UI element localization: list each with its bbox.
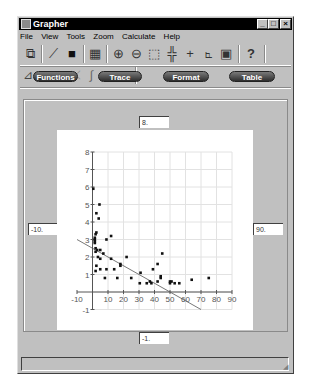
status-bar [21,357,289,371]
x-tick-label: 80 [212,295,221,304]
tab-format[interactable]: Format [163,71,209,82]
zoom-in-icon[interactable]: ⊕ [110,46,126,62]
grapher-window: Grapher _ □ × File View Tools Zoom Calcu… [17,16,294,374]
menu-file[interactable]: File [20,32,33,41]
status-text [22,365,25,374]
data-point [105,268,108,271]
minimize-button[interactable]: _ [257,19,268,29]
data-point [170,280,173,283]
plot-points-icon[interactable]: ⦜ [200,46,216,62]
data-point [139,271,142,274]
data-point [190,278,193,281]
integrate-icon[interactable]: ∫ [84,66,99,84]
x-tick-label: 50 [166,295,175,304]
zoom-out-icon[interactable]: ⊖ [128,46,144,62]
y-tick-label: 3 [85,236,90,245]
main-toolbar: ⧉ ⟋ ■ ▦ ⊕ ⊖ ⬚ ╬ + ⦜ ▣ ? [20,43,291,66]
data-point [145,282,148,285]
data-point [92,187,95,190]
zoom-box-icon[interactable]: ⬚ [146,46,162,62]
new-graph-icon[interactable]: ⧉ [22,46,38,62]
data-point [99,268,102,271]
data-point [95,264,98,267]
xmin-input[interactable]: -10. [28,223,58,235]
y-tick-label: 8 [85,148,90,157]
data-point [113,268,116,271]
x-tick-label: 30 [135,295,144,304]
tab-functions[interactable]: Functions [33,71,78,82]
menu-bar: File View Tools Zoom Calculate Help [20,31,186,42]
data-point [207,277,210,280]
table-window-icon[interactable]: ▣ [218,46,234,62]
graph-canvas[interactable]: -10102030405060708090-112345678 [57,130,253,330]
y-tick-label: 5 [85,201,90,210]
menu-view[interactable]: View [41,32,58,41]
y-tick-label: 6 [85,183,90,192]
ymax-input[interactable]: 8. [139,116,169,128]
data-point [97,256,100,259]
scatter-plot: -10102030405060708090-112345678 [57,130,253,330]
x-tick-label: 10 [104,295,113,304]
data-point [116,277,119,280]
xmax-input[interactable]: 90. [253,223,283,235]
data-point [138,282,141,285]
app-icon [21,19,31,29]
menu-help[interactable]: Help [164,32,180,41]
data-point [130,277,133,280]
data-point [150,282,153,285]
y-tick-label: -1 [82,306,90,315]
data-point [94,270,97,273]
toolbar-divider [20,87,291,89]
data-point [156,263,159,266]
data-point [110,235,113,238]
toolbar-separator [41,45,43,63]
tab-table[interactable]: Table [229,71,275,82]
data-point [99,257,102,260]
camera-icon[interactable]: ■ [64,46,80,62]
ymin-input[interactable]: -1. [139,332,169,344]
data-point [125,256,128,259]
data-point [102,252,105,255]
y-tick-label: 7 [85,166,90,175]
title-bar[interactable]: Grapher _ □ × [19,18,292,30]
axes-scale-icon[interactable]: ╬ [164,46,180,62]
data-point [119,264,122,267]
data-point [99,249,102,252]
y-tick-label: 4 [85,218,90,227]
grid-layout-icon[interactable]: ▦ [87,46,103,62]
x-tick-label: 40 [150,295,159,304]
data-point [95,231,98,234]
draw-function-icon[interactable]: ⟋ [45,46,61,62]
data-point [98,203,101,206]
data-point [110,257,113,260]
data-point [95,212,98,215]
x-tick-label: 90 [228,295,237,304]
data-point [94,242,97,245]
data-point [94,250,97,253]
x-tick-label: -10 [71,295,83,304]
toolbar-separator [106,45,108,63]
data-point [159,277,162,280]
maximize-button[interactable]: □ [268,19,279,29]
toolbar-separator [238,45,240,63]
crosshair-icon[interactable]: + [182,46,198,62]
data-point [97,217,100,220]
data-point [152,268,155,271]
help-icon[interactable]: ? [243,46,259,62]
x-tick-label: 70 [197,295,206,304]
menu-calculate[interactable]: Calculate [122,32,155,41]
menu-tools[interactable]: Tools [66,32,85,41]
tab-trace[interactable]: Trace [98,71,142,82]
resize-grip-icon[interactable]: ◢ [283,363,291,371]
data-point [161,252,164,255]
y-tick-label: 2 [85,253,90,262]
data-point [105,238,108,241]
menu-zoom[interactable]: Zoom [93,32,113,41]
toolbar-separator [264,45,266,63]
data-point [104,277,107,280]
x-tick-label: 20 [119,295,128,304]
data-point [178,282,181,285]
toolbar-separator [83,45,85,63]
close-button[interactable]: × [280,19,291,29]
data-point [156,280,159,283]
